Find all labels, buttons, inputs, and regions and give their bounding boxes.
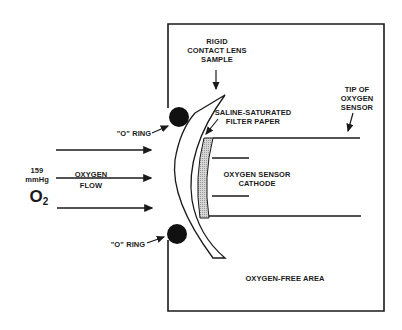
o-ring-bottom-arrow — [147, 237, 164, 243]
tip-sensor-arrow — [348, 113, 353, 131]
o2-label: O2 — [24, 188, 54, 211]
pressure-label: 159 mmHg — [22, 166, 52, 184]
o-ring-bottom-label: "O" RING — [108, 240, 148, 249]
o-ring-top-arrow — [152, 126, 168, 133]
oxygen-free-area-label: OXYGEN-FREE AREA — [240, 274, 330, 283]
o-ring-bottom — [167, 224, 187, 244]
cathode-label: OXYGEN SENSOR CATHODE — [222, 170, 292, 188]
o-ring-top-label: "O" RING — [114, 129, 154, 138]
filter-paper-label: SALINE-SATURATED FILTER PAPER — [213, 108, 293, 126]
lens-sample-label: RIGID CONTACT LENS SAMPLE — [182, 37, 252, 64]
o-ring-top — [169, 107, 189, 127]
oxygen-flow-label: OXYGEN FLOW — [71, 170, 111, 190]
filter-paper — [198, 138, 213, 218]
tip-sensor-label: TIP OF OXYGEN SENSOR — [332, 85, 382, 112]
